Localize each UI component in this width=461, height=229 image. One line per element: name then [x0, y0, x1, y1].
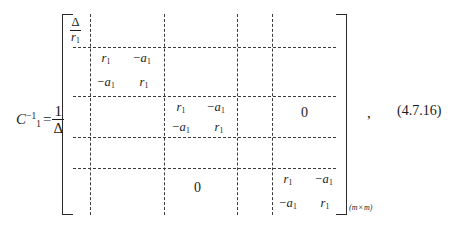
block-3-cell-1-1: r1 [320, 196, 329, 211]
block-2-cell-1-1: r1 [214, 120, 223, 135]
equation-figure: C−11= 1 Δ Δ r1 r1 −a1 −a1 r1 r1 −a1 [0, 0, 461, 229]
trailing-comma: , [367, 106, 371, 121]
corner-numerator: Δ [70, 16, 81, 31]
block-3-cell-1-0: −a1 [279, 196, 297, 211]
matrix-partition-vertical-3 [237, 14, 238, 215]
matrix-bracket-right [336, 14, 347, 215]
zero-block-lower-left: 0 [194, 180, 201, 196]
matrix-dimension-label: (m×m) [349, 203, 372, 212]
times-sign: × [358, 203, 363, 212]
matrix-corner-entry: Δ r1 [70, 17, 81, 46]
equation-left-hand-side: C−11= 1 Δ [16, 104, 64, 137]
matrix-partition-vertical-2 [164, 14, 165, 215]
block-2-cell-0-1: −a1 [207, 100, 225, 115]
block-2-cell-0-0: r1 [176, 100, 185, 115]
matrix-subscript: 1 [36, 119, 41, 129]
equation-number: (4.7.16) [397, 104, 441, 118]
matrix-partition-vertical-4 [272, 14, 273, 215]
block-1-cell-0-1: −a1 [133, 51, 151, 66]
zero-block-upper-right: 0 [301, 105, 308, 121]
corner-denominator: r1 [70, 31, 81, 46]
matrix-partition-horizontal-3 [73, 137, 336, 138]
matrix-partition-vertical-1 [90, 14, 91, 215]
matrix-partition-horizontal-2 [73, 96, 336, 97]
matrix-symbol-c: C−11 [16, 111, 41, 127]
block-1-cell-1-1: r1 [139, 75, 148, 90]
matrix-partition-horizontal-1 [73, 47, 336, 48]
block-1-cell-0-0: r1 [101, 51, 110, 66]
block-2-cell-1-0: −a1 [172, 120, 190, 135]
corner-fraction: Δ r1 [70, 16, 81, 45]
matrix-superscript: −1 [26, 111, 36, 121]
matrix-partition-horizontal-4 [73, 168, 336, 169]
block-3-cell-0-1: −a1 [315, 172, 333, 187]
equals-sign: = [43, 111, 51, 127]
diagonal-ellipsis-icon [236, 137, 284, 138]
block-3-cell-0-0: r1 [283, 172, 292, 187]
block-1-cell-1-0: −a1 [97, 75, 115, 90]
